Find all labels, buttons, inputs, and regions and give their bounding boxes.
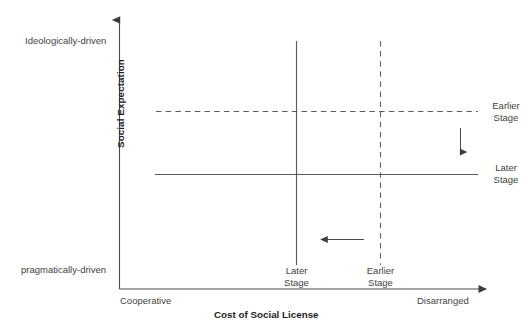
y-axis-title: Social Expectation — [115, 44, 126, 164]
figure-title-partial — [120, 0, 410, 2]
diagram-vector-layer — [0, 0, 525, 331]
earlier-stage-horizontal-label-line2: Stage — [487, 112, 525, 124]
earlier-stage-vertical-label: Earlier Stage — [358, 265, 403, 288]
y-axis-bottom-label: pragmatically-driven — [21, 264, 106, 276]
earlier-stage-vertical-label-line1: Earlier — [358, 265, 403, 277]
earlier-stage-vertical-label-line2: Stage — [358, 277, 403, 289]
earlier-stage-horizontal-label: Earlier Stage — [487, 100, 525, 123]
x-axis-title: Cost of Social License — [214, 309, 319, 321]
earlier-stage-horizontal-label-line1: Earlier — [487, 100, 525, 112]
x-axis-right-label: Disarranged — [417, 295, 469, 307]
x-axis-left-label: Cooperative — [120, 295, 171, 307]
later-stage-horizontal-label-line1: Later — [487, 162, 525, 174]
later-stage-horizontal-label-line2: Stage — [487, 174, 525, 186]
later-stage-horizontal-label: Later Stage — [487, 162, 525, 185]
diagram-canvas: Ideologically-driven pragmatically-drive… — [0, 0, 525, 331]
y-axis-top-label: Ideologically-driven — [25, 35, 106, 47]
later-stage-vertical-label-line2: Stage — [274, 277, 319, 289]
later-stage-vertical-label-line1: Later — [274, 265, 319, 277]
later-stage-vertical-label: Later Stage — [274, 265, 319, 288]
